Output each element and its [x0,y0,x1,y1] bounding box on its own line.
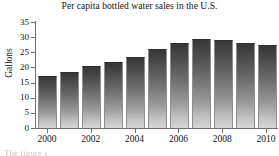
x-axis-line [35,128,278,129]
y-tick-mark [31,128,36,129]
y-tick-label: 10 [7,93,29,102]
y-tick-label: 25 [7,48,29,57]
bar-2006 [170,43,189,128]
y-tick-label: 5 [7,108,29,117]
x-tick-label: 2004 [118,134,152,145]
bar-2003 [104,62,123,128]
bar-2010 [258,45,277,128]
bar-2007 [192,39,211,128]
x-tick-mark [47,129,48,133]
x-tick-label: 2002 [74,134,108,145]
y-tick-label: 30 [7,33,29,42]
x-tick-label: 2008 [205,134,239,145]
plot-area [36,22,277,128]
x-tick-mark [135,129,136,133]
x-tick-label: 2010 [249,134,279,145]
bar-2000 [38,76,57,128]
x-tick-mark [91,129,92,133]
y-tick-label: 35 [7,18,29,27]
bar-2004 [126,57,145,128]
x-tick-label: 2000 [30,134,64,145]
bar-2009 [236,43,255,128]
footer-clipped-text: The figure s [4,148,47,156]
x-tick-mark [222,129,223,133]
chart-title: Per capita bottled water sales in the U.… [0,1,279,11]
x-tick-label: 2006 [161,134,195,145]
bar-2005 [148,49,167,128]
bar-2008 [214,40,233,128]
bar-2002 [82,66,101,128]
y-tick-label: 15 [7,78,29,87]
y-tick-label: 20 [7,63,29,72]
y-tick-label: 0 [7,124,29,133]
x-tick-mark [178,129,179,133]
bar-2001 [60,72,79,128]
bar-chart-figure: Per capita bottled water sales in the U.… [0,0,279,156]
x-tick-mark [266,129,267,133]
